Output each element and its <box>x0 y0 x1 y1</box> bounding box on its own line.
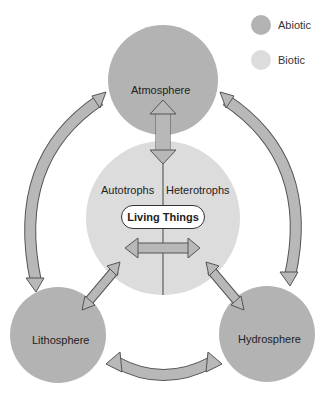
autotrophs-label: Autotrophs <box>101 184 154 196</box>
legend-label-biotic: Biotic <box>278 54 305 66</box>
biotic-swatch-icon <box>251 50 271 70</box>
atmosphere-label: Atmosphere <box>131 84 190 96</box>
arrow-head-icon <box>206 352 222 372</box>
legend-item-biotic: Biotic <box>251 50 305 70</box>
legend-item-abiotic: Abiotic <box>251 15 311 35</box>
arrow-head-icon <box>106 352 122 372</box>
lithosphere-label: Lithosphere <box>32 334 90 346</box>
legend-label-abiotic: Abiotic <box>278 19 311 31</box>
arrow-head-icon <box>280 272 298 286</box>
heterotrophs-label: Heterotrophs <box>166 184 230 196</box>
abiotic-swatch-icon <box>251 15 271 35</box>
hydrosphere-label: Hydrosphere <box>238 333 301 345</box>
living-things-pill: Living Things <box>121 205 205 229</box>
arrow-head-icon <box>26 278 44 292</box>
